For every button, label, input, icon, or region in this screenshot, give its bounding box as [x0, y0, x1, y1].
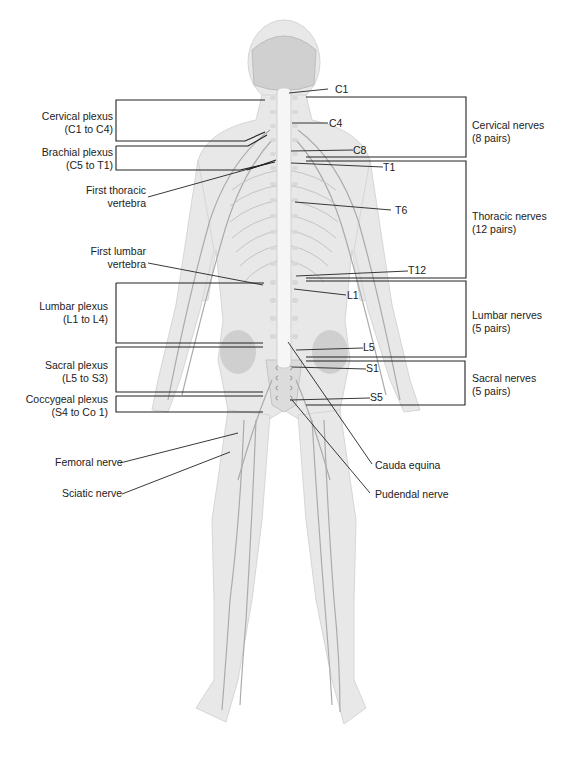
label-vertebra-t1: T1	[383, 161, 395, 174]
label-thoracic-nerves: Thoracic nerves (12 pairs)	[472, 210, 547, 235]
label-femoral-nerve: Femoral nerve	[55, 456, 123, 469]
label-vertebra-c1: C1	[335, 83, 348, 96]
label-line: (L5 to S3)	[45, 372, 108, 385]
label-pudendal-nerve: Pudendal nerve	[375, 488, 449, 501]
label-lumbar-nerves: Lumbar nerves (5 pairs)	[472, 309, 542, 334]
label-line: First lumbar	[91, 245, 146, 258]
label-line: Coccygeal plexus	[26, 393, 108, 406]
label-vertebra-l1: L1	[347, 289, 359, 302]
label-line: vertebra	[86, 197, 146, 210]
label-line: Cervical nerves	[472, 119, 544, 132]
label-line: vertebra	[91, 258, 146, 271]
label-line: First thoracic	[86, 184, 146, 197]
label-line: Lumbar plexus	[39, 300, 108, 313]
label-cervical-nerves: Cervical nerves (8 pairs)	[472, 119, 544, 144]
brain	[252, 36, 316, 91]
label-cervical-plexus: Cervical plexus (C1 to C4)	[42, 110, 113, 135]
label-line: (8 pairs)	[472, 132, 544, 145]
label-line: (12 pairs)	[472, 223, 547, 236]
label-vertebra-t12: T12	[408, 264, 426, 277]
label-line: (5 pairs)	[472, 385, 536, 398]
label-vertebra-c8: C8	[353, 144, 366, 157]
label-vertebra-c4: C4	[329, 117, 342, 130]
label-coccygeal-plexus: Coccygeal plexus (S4 to Co 1)	[26, 393, 108, 418]
label-line: Cervical plexus	[42, 110, 113, 123]
label-line: Thoracic nerves	[472, 210, 547, 223]
label-line: Sacral plexus	[45, 359, 108, 372]
spinal-column	[277, 88, 291, 368]
label-line: (S4 to Co 1)	[26, 406, 108, 419]
label-line: (C5 to T1)	[42, 159, 113, 172]
label-brachial-plexus: Brachial plexus (C5 to T1)	[42, 146, 113, 171]
label-sacral-nerves: Sacral nerves (5 pairs)	[472, 372, 536, 397]
label-lumbar-plexus: Lumbar plexus (L1 to L4)	[39, 300, 108, 325]
label-vertebra-s5: S5	[370, 391, 383, 404]
label-vertebra-l5: L5	[363, 341, 375, 354]
label-vertebra-t6: T6	[395, 204, 407, 217]
label-line: Brachial plexus	[42, 146, 113, 159]
left-ilium	[220, 330, 256, 374]
label-first-thoracic-vertebra: First thoracic vertebra	[86, 184, 146, 209]
label-line: Lumbar nerves	[472, 309, 542, 322]
label-line: (C1 to C4)	[42, 123, 113, 136]
label-line: (5 pairs)	[472, 322, 542, 335]
label-cauda-equina: Cauda equina	[375, 459, 440, 472]
label-sciatic-nerve: Sciatic nerve	[62, 487, 122, 500]
label-vertebra-s1: S1	[366, 362, 379, 375]
label-line: (L1 to L4)	[39, 313, 108, 326]
label-line: Sacral nerves	[472, 372, 536, 385]
label-first-lumbar-vertebra: First lumbar vertebra	[91, 245, 146, 270]
label-sacral-plexus: Sacral plexus (L5 to S3)	[45, 359, 108, 384]
